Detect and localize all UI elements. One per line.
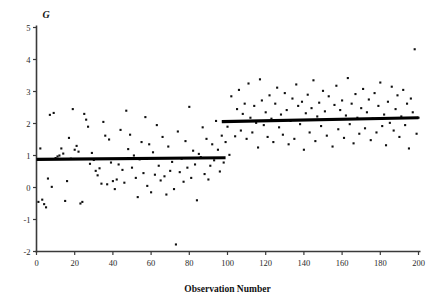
data-point (177, 130, 179, 132)
data-point (194, 163, 196, 165)
data-point (416, 133, 418, 135)
data-point (123, 182, 125, 184)
data-point (49, 114, 51, 116)
data-point (228, 154, 230, 156)
data-point (121, 169, 123, 171)
data-point (204, 173, 206, 175)
data-point (354, 93, 356, 95)
data-point (246, 138, 248, 140)
data-point (190, 177, 192, 179)
data-point (383, 113, 385, 115)
data-point (169, 170, 171, 172)
data-point (301, 101, 303, 103)
data-point (236, 108, 238, 110)
data-point (119, 129, 121, 131)
data-point (41, 199, 43, 201)
data-point (389, 122, 391, 124)
data-point (198, 153, 200, 155)
data-point (154, 174, 156, 176)
data-point (263, 124, 265, 126)
data-point (53, 112, 55, 114)
data-point (268, 94, 270, 96)
data-point (133, 154, 135, 156)
y-tick-label: 5 (26, 23, 30, 33)
data-points (37, 48, 419, 245)
data-point (72, 108, 74, 110)
data-point (66, 180, 68, 182)
fitted-step-lines (37, 118, 419, 160)
data-point (51, 186, 53, 188)
data-point (106, 183, 108, 185)
data-point (95, 170, 97, 172)
data-point (56, 155, 58, 157)
data-point (219, 170, 221, 172)
y-tick-label: -2 (23, 247, 30, 257)
data-point (223, 161, 225, 163)
data-point (370, 139, 372, 141)
data-point (272, 141, 274, 143)
data-point (217, 149, 219, 151)
data-point (379, 81, 381, 83)
data-point (100, 183, 102, 185)
data-point (230, 95, 232, 97)
data-point (137, 196, 139, 198)
data-point (347, 77, 349, 79)
data-point (328, 95, 330, 97)
data-point (349, 123, 351, 125)
data-point (110, 161, 112, 163)
data-point (148, 143, 150, 145)
data-point (339, 109, 341, 111)
data-point (368, 98, 370, 100)
data-point (366, 111, 368, 113)
y-tick-label: 1 (26, 151, 30, 161)
data-point (381, 125, 383, 127)
data-point (345, 114, 347, 116)
data-point (104, 135, 106, 137)
data-point (146, 185, 148, 187)
data-point (202, 126, 204, 128)
data-point (320, 125, 322, 127)
data-point (114, 188, 116, 190)
data-point (60, 147, 62, 149)
data-point (249, 117, 251, 119)
data-point (244, 103, 246, 105)
data-point (284, 92, 286, 94)
data-point (278, 126, 280, 128)
data-point (91, 152, 93, 154)
data-point (213, 159, 215, 161)
plot-area: 020406080100120140160180200-2-1012345 Ob… (0, 0, 430, 300)
data-point (39, 147, 41, 149)
data-point (77, 151, 79, 153)
y-axis-title: G (43, 9, 51, 20)
data-point (288, 143, 290, 145)
data-point (293, 138, 295, 140)
data-point (238, 89, 240, 91)
data-point (74, 149, 76, 151)
data-point (307, 94, 309, 96)
data-point (343, 137, 345, 139)
data-point (108, 138, 110, 140)
data-point (129, 134, 131, 136)
data-point (395, 108, 397, 110)
data-point (156, 124, 158, 126)
data-point (68, 137, 70, 139)
data-point (291, 97, 293, 99)
x-tick-label: 160 (336, 258, 349, 268)
data-point (209, 165, 211, 167)
data-point (351, 103, 353, 105)
data-point (127, 148, 129, 150)
data-point (45, 206, 47, 208)
data-point (335, 85, 337, 87)
x-axis-title: Observation Number (184, 284, 271, 294)
data-point (83, 113, 85, 115)
data-point (276, 87, 278, 89)
data-point (265, 111, 267, 113)
data-point (188, 106, 190, 108)
y-tick-label: 0 (26, 183, 30, 193)
data-point (391, 86, 393, 88)
data-point (251, 131, 253, 133)
data-point (305, 112, 307, 114)
data-point (333, 104, 335, 106)
x-tick-label: 40 (109, 258, 118, 268)
data-point (207, 178, 209, 180)
